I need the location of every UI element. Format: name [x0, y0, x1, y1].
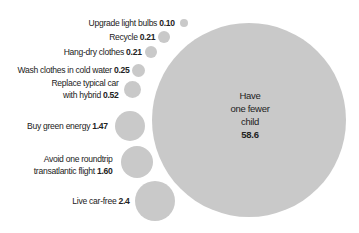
bubble-flight	[121, 146, 153, 178]
label-hybrid: Replace typical car with hybrid 0.52	[52, 77, 119, 101]
label-recycle-value: 0.21	[139, 31, 155, 42]
bubble-carfree	[135, 181, 175, 221]
bubble-chart: Upgrade light bulbs 0.10 Recycle 0.21 Ha…	[0, 0, 359, 233]
bubble-green	[115, 111, 145, 141]
label-child-line3: child	[200, 115, 300, 128]
label-hybrid-value: 0.52	[103, 89, 119, 100]
label-hangdry-value: 0.21	[126, 46, 142, 57]
label-recycle-name: Recycle	[109, 31, 138, 42]
label-wash-value: 0.25	[113, 64, 129, 75]
label-bulbs: Upgrade light bulbs 0.10	[89, 17, 175, 29]
label-hangdry-name: Hang-dry clothes	[64, 46, 124, 57]
label-carfree-name: Live car-free	[73, 195, 117, 206]
label-green-name: Buy green energy	[27, 120, 90, 131]
label-recycle: Recycle 0.21	[109, 31, 155, 43]
label-child-line2: one fewer	[200, 102, 300, 115]
label-flight-line1: Avoid one roundtrip	[34, 153, 113, 165]
label-wash-name: Wash clothes in cold water	[17, 64, 111, 75]
label-hangdry: Hang-dry clothes 0.21	[64, 46, 142, 58]
label-hybrid-line2: with hybrid	[63, 89, 101, 100]
bubble-recycle	[158, 31, 170, 43]
label-bulbs-name: Upgrade light bulbs	[89, 17, 158, 28]
label-child: Have one fewer child 58.6	[200, 89, 300, 141]
bubble-bulbs	[180, 19, 188, 27]
bubble-wash	[132, 64, 145, 77]
label-carfree-value: 2.4	[119, 195, 130, 206]
label-green-value: 1.47	[92, 120, 108, 131]
label-green: Buy green energy 1.47	[27, 120, 108, 132]
label-hybrid-line1: Replace typical car	[52, 77, 119, 89]
label-flight: Avoid one roundtrip transatlantic flight…	[34, 153, 113, 177]
label-child-value: 58.6	[200, 128, 300, 141]
label-carfree: Live car-free 2.4	[73, 195, 130, 207]
label-bulbs-value: 0.10	[159, 17, 175, 28]
label-wash: Wash clothes in cold water 0.25	[17, 64, 129, 76]
bubble-hangdry	[145, 46, 157, 58]
label-flight-line2: transatlantic flight	[34, 165, 95, 176]
label-flight-value: 1.60	[97, 165, 113, 176]
label-child-line1: Have	[200, 89, 300, 102]
bubble-hybrid	[124, 81, 141, 98]
